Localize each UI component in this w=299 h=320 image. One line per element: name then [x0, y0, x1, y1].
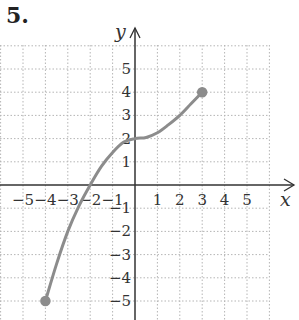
- axes: xy: [0, 20, 294, 320]
- y-tick-label: 3: [121, 106, 131, 124]
- endpoint-dot: [198, 88, 207, 97]
- function-graph: xy −5−4−3−2−11234554321−1−2−3−4−5: [0, 0, 299, 320]
- x-tick-label: 2: [175, 191, 185, 209]
- y-tick-label: −4: [109, 269, 131, 287]
- y-tick-label: −2: [109, 222, 131, 240]
- endpoint-dot: [41, 297, 50, 306]
- y-tick-label: 4: [121, 83, 131, 101]
- x-tick-label: 4: [220, 191, 230, 209]
- y-axis-label: y: [114, 20, 126, 42]
- y-tick-label: 5: [121, 60, 131, 78]
- x-tick-label: 5: [242, 191, 252, 209]
- x-tick-label: −3: [57, 191, 79, 209]
- y-tick-label: 1: [121, 153, 131, 171]
- x-tick-label: −4: [34, 191, 56, 209]
- x-tick-label: 3: [197, 191, 207, 209]
- x-tick-label: −5: [12, 191, 34, 209]
- x-tick-label: 1: [153, 191, 163, 209]
- y-tick-label: −1: [109, 199, 131, 217]
- y-tick-label: −3: [109, 246, 131, 264]
- y-tick-label: −5: [109, 292, 131, 310]
- x-axis-label: x: [280, 188, 291, 210]
